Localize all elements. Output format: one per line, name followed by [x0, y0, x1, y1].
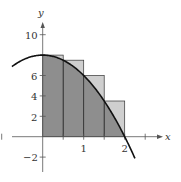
y-tick-label-6: 6 [31, 71, 37, 82]
y-tick-label-2: 2 [31, 112, 37, 123]
y-axis-label: y [37, 7, 44, 18]
y-tick-label-10: 10 [25, 30, 38, 41]
y-axis-arrow-icon [41, 22, 45, 28]
rectangle-under-curve-1 [43, 55, 64, 137]
upper-sum-rectangles [43, 55, 125, 137]
x-axis-label: x [165, 131, 171, 142]
x-axis-arrow-icon [157, 135, 163, 139]
y-tick-label-4: 4 [31, 91, 37, 102]
x-tick-label-1: 1 [81, 143, 87, 154]
riemann-sum-chart: x y 10 6 4 2 −2 1 2 [0, 0, 181, 182]
y-tick-label-neg2: −2 [23, 152, 38, 163]
x-tick-label-2: 2 [122, 143, 128, 154]
